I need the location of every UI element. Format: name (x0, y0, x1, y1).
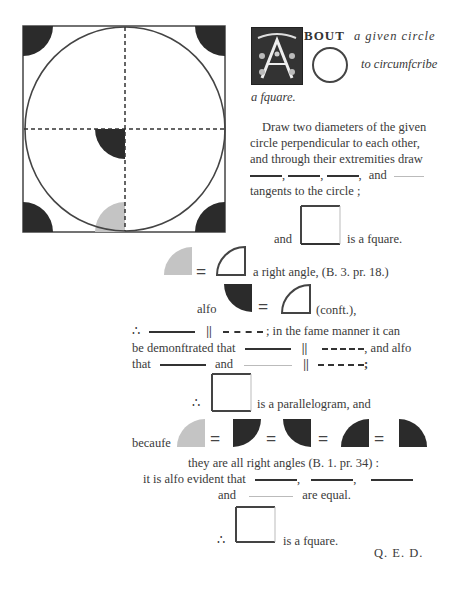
para-line2: circle perpendicular to each other, (250, 136, 420, 151)
conclusion-text: is a fquare. (283, 534, 338, 549)
that-word: that (132, 357, 151, 371)
parallel-symbol: || (302, 341, 308, 355)
para-line1: Draw two diameters of the given (262, 120, 426, 135)
thin-line (249, 496, 293, 497)
dark-right-angle-icon (398, 418, 428, 448)
demonstrated-rest: , and alfo (364, 341, 411, 355)
comma: , (282, 168, 285, 182)
light-right-angle-icon (163, 246, 193, 276)
solid-line (311, 479, 353, 481)
tangent-line-3 (327, 175, 359, 177)
ornament-icon (252, 28, 302, 84)
right-angles-text: they are all right angles (B. 1. pr. 34)… (188, 456, 379, 471)
heading-caps: BOUT (304, 28, 345, 43)
para-line5: tangents to the circle ; (250, 184, 360, 199)
equals-sign: = (374, 429, 384, 450)
equals-sign: = (266, 429, 276, 450)
square-icon (300, 205, 342, 245)
solid-line (149, 331, 195, 333)
and-word: and (369, 168, 387, 182)
comma: , (359, 168, 362, 182)
circle-icon (311, 46, 349, 84)
dark-right-angle-icon (222, 283, 254, 315)
and-word: and (215, 357, 233, 371)
equals-sign: = (210, 429, 220, 450)
solid-line (371, 479, 413, 481)
because-word: becaufe (132, 436, 171, 451)
square-icon (211, 373, 253, 412)
outline-right-angle-icon (280, 283, 312, 315)
and-word: and (218, 488, 236, 502)
heading-line1: a given circle (354, 29, 436, 43)
solid-line (255, 479, 297, 481)
tangent-line-4 (394, 176, 424, 177)
parallel-symbol: || (206, 324, 212, 338)
comma: , (353, 472, 356, 486)
square-statement: is a fquare. (347, 232, 402, 247)
therefore-symbol: ∴ (217, 533, 225, 548)
equal-text: are equal. (302, 488, 351, 502)
tangent-line-2 (288, 175, 320, 177)
dark-right-angle-icon (232, 418, 262, 448)
qed: Q. E. D. (374, 546, 423, 561)
equals-sign: = (318, 429, 328, 450)
square-icon (235, 506, 277, 543)
solid-line (160, 364, 206, 366)
solid-line (245, 348, 291, 350)
parallel-symbol: || (303, 357, 309, 371)
dashed-line (223, 331, 263, 333)
right-angle-text: a right angle, (B. 3. pr. 18.) (253, 265, 389, 280)
const-text: (conft.), (316, 303, 356, 318)
therefore-symbol: ∴ (192, 396, 200, 411)
outline-right-angle-icon (215, 245, 247, 277)
therefore-text: ; in the fame manner it can (266, 324, 400, 338)
para-line3: and through their extremities draw (250, 152, 423, 167)
dark-right-angle-icon (282, 418, 312, 448)
tangent-line-1 (250, 175, 282, 177)
therefore-symbol: ∴ (132, 324, 140, 338)
dashed-line (322, 348, 364, 350)
semicolon: ; (364, 357, 368, 371)
heading-line3: a fquare. (251, 90, 296, 105)
also-word: alfo (197, 302, 216, 317)
comma: , (320, 168, 323, 182)
equals-sign: = (196, 262, 206, 283)
parallelogram-text: is a parallelogram, and (257, 397, 371, 412)
and-word: and (274, 232, 292, 247)
comma: , (297, 472, 300, 486)
dark-right-angle-icon (340, 418, 370, 448)
main-figure (22, 25, 226, 233)
light-right-angle-icon (176, 418, 206, 448)
demonstrated-text: be demonftrated that (132, 341, 235, 355)
drop-cap (251, 27, 303, 85)
heading-line2: to circumfcribe (361, 57, 437, 72)
equals-sign: = (258, 297, 268, 318)
evident-text: it is alfo evident that (143, 472, 246, 486)
dashed-line (318, 364, 364, 366)
thin-line (244, 365, 292, 366)
